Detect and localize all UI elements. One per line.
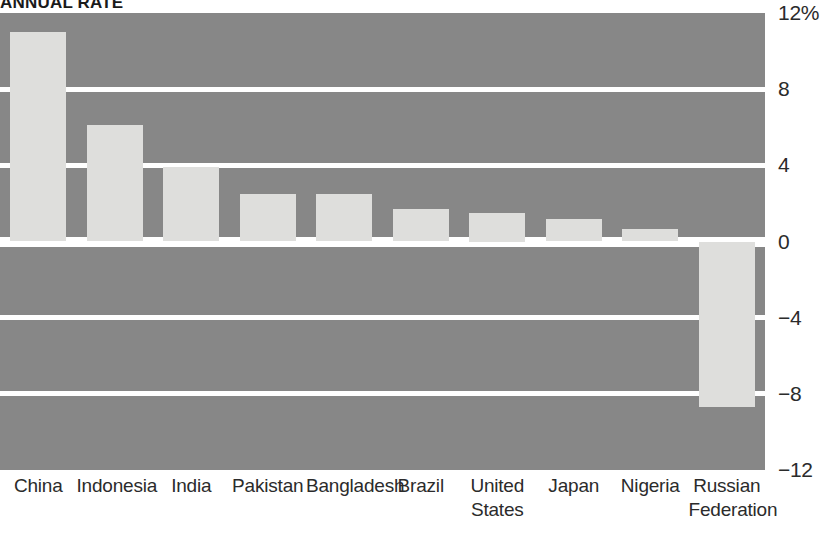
y-tick-label: −12 [778, 458, 813, 482]
bar-brazil [393, 209, 449, 241]
x-label-line: States [459, 498, 536, 522]
y-tick-label: 12% [778, 1, 819, 25]
bar-nigeria [622, 229, 678, 241]
x-axis-label-pakistan: Pakistan [230, 474, 307, 498]
x-label-line: Japan [536, 474, 613, 498]
gridline-neg4 [0, 315, 765, 320]
x-label-line: Bangladesh [306, 474, 383, 498]
x-axis-label-japan: Japan [536, 474, 613, 498]
bar-chart: ANNUAL RATE 12%840−4−8−12 ChinaIndonesia… [0, 0, 825, 547]
x-axis-label-nigeria: Nigeria [612, 474, 689, 498]
x-axis: ChinaIndonesiaIndiaPakistanBangladeshBra… [0, 474, 765, 547]
plot-area [0, 13, 765, 470]
y-tick-label: −8 [778, 382, 801, 406]
x-axis-label-bangladesh: Bangladesh [306, 474, 383, 498]
x-label-line: Pakistan [230, 474, 307, 498]
x-label-line: United [459, 474, 536, 498]
x-axis-label-india: India [153, 474, 230, 498]
gridline-8 [0, 87, 765, 92]
x-label-line: Federation [689, 498, 766, 522]
y-tick-label: 0 [778, 230, 789, 254]
bar-china [10, 32, 66, 241]
bar-india [163, 167, 219, 241]
x-axis-label-united-states: UnitedStates [459, 474, 536, 522]
x-label-line: Brazil [383, 474, 460, 498]
bar-pakistan [240, 194, 296, 242]
y-tick-label: 8 [778, 77, 789, 101]
x-axis-label-brazil: Brazil [383, 474, 460, 498]
x-axis-label-indonesia: Indonesia [77, 474, 154, 498]
x-axis-label-russian-federation: RussianFederation [689, 474, 766, 522]
x-label-line: Indonesia [77, 474, 154, 498]
y-tick-label: −4 [778, 306, 801, 330]
x-label-line: China [0, 474, 77, 498]
bar-russian-federation [699, 242, 755, 408]
x-label-line: India [153, 474, 230, 498]
x-label-line: Nigeria [612, 474, 689, 498]
chart-title: ANNUAL RATE [0, 0, 123, 12]
gridline-neg8 [0, 391, 765, 396]
bar-united-states [469, 213, 525, 242]
bar-japan [546, 219, 602, 242]
x-axis-label-china: China [0, 474, 77, 498]
y-axis: 12%840−4−8−12 [770, 0, 825, 547]
bar-indonesia [87, 125, 143, 241]
bar-bangladesh [316, 194, 372, 242]
x-label-line: Russian [689, 474, 766, 498]
y-tick-label: 4 [778, 153, 789, 177]
